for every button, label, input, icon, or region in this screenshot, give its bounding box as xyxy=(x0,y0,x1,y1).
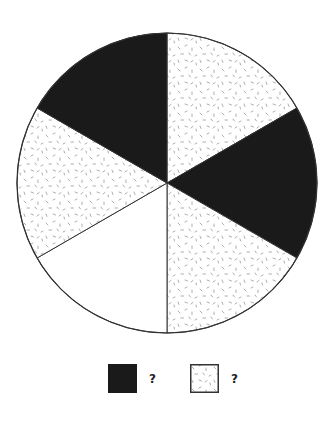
legend-label-dotted: ? xyxy=(231,372,238,386)
legend-item-dark: ? xyxy=(108,364,156,393)
dotted-swatch xyxy=(190,364,219,393)
pie-slices xyxy=(17,33,317,333)
pie-chart xyxy=(0,0,330,345)
legend-item-dotted: ? xyxy=(190,364,238,393)
dark-swatch xyxy=(108,364,137,393)
legend-label-dark: ? xyxy=(149,372,156,386)
legend: ? ? xyxy=(0,364,330,404)
